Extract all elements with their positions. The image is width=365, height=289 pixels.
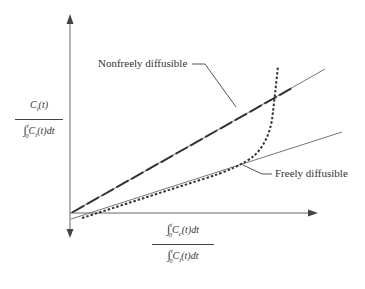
freely-diffusible-label: Freely diffusible bbox=[275, 167, 348, 179]
x-axis-arrow-right-icon bbox=[308, 210, 318, 217]
x-axis-label-numerator: ∫t0Cc(t)dt bbox=[152, 222, 214, 241]
nonfreely-leader-line bbox=[192, 64, 236, 107]
y-axis-fraction-bar bbox=[15, 119, 63, 120]
y-axis-arrow-down-icon bbox=[67, 229, 74, 238]
y-axis-label: Ct(t) ∫t0Ct(t)dt bbox=[15, 98, 63, 142]
y-axis-label-numerator: Ct(t) bbox=[15, 98, 63, 116]
y-axis-arrow-up-icon bbox=[67, 14, 74, 24]
y-axis-label-denominator: ∫t0Ct(t)dt bbox=[15, 123, 63, 142]
freely-leader-line bbox=[243, 165, 272, 174]
x-axis-fraction-bar bbox=[152, 244, 214, 245]
measured-dotted-curve bbox=[82, 66, 278, 218]
nonfreely-diffusible-label: Nonfreely diffusible bbox=[98, 57, 187, 69]
x-axis-label: ∫t0Cc(t)dt ∫t0Ct(t)dt bbox=[152, 222, 214, 267]
x-axis-label-denominator: ∫t0Ct(t)dt bbox=[152, 248, 214, 267]
